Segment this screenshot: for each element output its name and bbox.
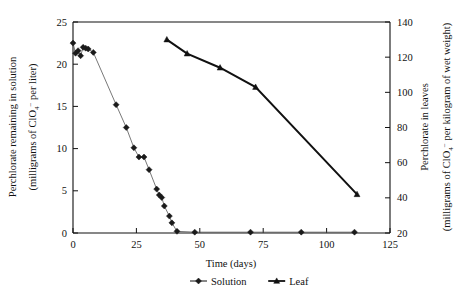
legend-item-solution[interactable]: Solution (190, 276, 247, 287)
right-tick-label: 60 (397, 157, 408, 168)
left-tick-label: 25 (57, 17, 68, 28)
right-tick-label: 100 (397, 87, 413, 98)
x-axis-title: Time (days) (206, 258, 257, 270)
chart-svg: 0510152025 20406080100120140 02550751001… (0, 0, 467, 298)
x-tick-label: 0 (70, 239, 75, 250)
chart-legend: SolutionLeaf (190, 276, 309, 287)
x-axis: 0255075100125 (70, 228, 398, 250)
series-solution (70, 40, 357, 235)
left-axis-unit-prefix: (milligrams of ClO (27, 110, 39, 191)
left-tick-label: 5 (62, 185, 67, 196)
left-axis-unit-suffix: per liter) (27, 63, 39, 103)
plot-frame (73, 22, 390, 233)
data-point-marker (131, 145, 137, 151)
data-point-marker (351, 229, 357, 235)
right-axis: 20406080100120140 (385, 17, 413, 239)
series-line (73, 43, 355, 232)
data-point-marker (90, 49, 96, 55)
x-tick-label: 75 (258, 239, 269, 250)
right-tick-label: 20 (397, 228, 408, 239)
x-tick-label: 100 (319, 239, 335, 250)
left-tick-label: 15 (57, 101, 68, 112)
data-point-marker (248, 229, 254, 235)
x-tick-label: 125 (382, 239, 398, 250)
data-point-marker (123, 125, 129, 131)
x-tick-label: 25 (131, 239, 142, 250)
data-point-marker (166, 213, 172, 219)
legend-label: Solution (211, 276, 247, 287)
legend-label: Leaf (289, 276, 309, 287)
right-tick-label: 40 (397, 192, 408, 203)
data-point-marker (113, 102, 119, 108)
legend-item-leaf[interactable]: Leaf (268, 276, 309, 287)
data-point-marker (164, 36, 170, 41)
svg-text:(milligrams of ClO4− per kilog: (milligrams of ClO4− per kilogram of wet… (441, 22, 455, 231)
data-point-marker (141, 154, 147, 160)
series-layer (70, 36, 360, 235)
series-line (167, 40, 357, 195)
left-tick-label: 10 (57, 143, 68, 154)
right-axis-title-line2: (milligrams of ClO4− per kilogram of wet… (441, 22, 455, 231)
right-tick-label: 140 (397, 17, 413, 28)
data-point-marker (161, 203, 167, 209)
svg-text:(milligrams of ClO4− per liter: (milligrams of ClO4− per liter) (27, 63, 41, 191)
left-axis-title-line2: (milligrams of ClO4− per liter) (27, 63, 41, 191)
right-axis-title-line1: Perchlorate in leaves (419, 83, 430, 170)
data-point-marker (78, 53, 84, 59)
right-tick-label: 120 (397, 52, 413, 63)
right-tick-label: 80 (397, 122, 408, 133)
x-tick-label: 50 (195, 239, 206, 250)
series-leaf (164, 36, 360, 196)
data-point-marker (70, 40, 76, 46)
data-point-marker (192, 229, 198, 235)
data-point-marker (298, 229, 304, 235)
chart-figure: 0510152025 20406080100120140 02550751001… (0, 0, 467, 298)
legend-marker-diamond-icon (196, 278, 202, 284)
left-axis-title-line1: Perchlorate remaining in solution (7, 56, 18, 197)
right-axis-unit-prefix: (milligrams of ClO (441, 150, 453, 231)
data-point-marker (146, 167, 152, 173)
data-point-marker (154, 186, 160, 192)
left-tick-label: 0 (62, 228, 67, 239)
data-point-marker (169, 220, 175, 226)
right-axis-unit-suffix: per kilogram of wet weight) (441, 22, 453, 143)
left-tick-label: 20 (57, 59, 68, 70)
